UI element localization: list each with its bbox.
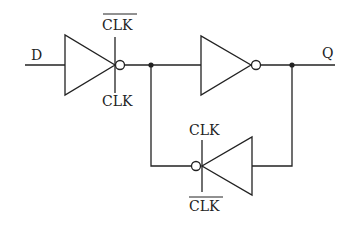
label-d: D <box>31 47 42 63</box>
inverter-1-bubble <box>116 61 125 70</box>
inverter-2-triangle <box>201 36 251 95</box>
label-clk-bar-bottom-3: CLK <box>189 198 220 214</box>
d-latch-diagram: D CLK CLK Q CLK CLK <box>0 0 353 227</box>
inverter-3-bubble <box>192 162 201 171</box>
label-clk-top-3: CLK <box>189 122 220 138</box>
label-clk-bar-top-1: CLK <box>102 17 133 33</box>
label-clk-bottom-1: CLK <box>102 93 133 109</box>
feedback-wire-right <box>252 65 292 166</box>
inverter-3-triangle <box>202 137 252 195</box>
inverter-2-bubble <box>252 61 261 70</box>
inverter-1-triangle <box>65 35 115 95</box>
label-q: Q <box>322 45 333 61</box>
feedback-wire-left <box>151 65 192 166</box>
